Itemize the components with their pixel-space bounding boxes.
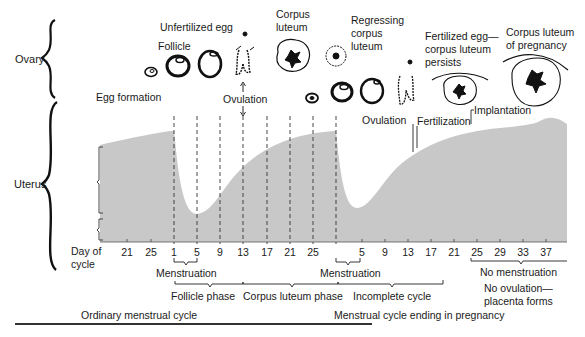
menstruation-1-brace <box>174 258 197 265</box>
phase-brace <box>175 280 443 287</box>
label-regressing-line2: corpus <box>351 27 383 39</box>
label-corpus-luteum-phase: Corpus luteum phase <box>243 290 343 302</box>
label-no-ovulation-line2: placenta forms <box>484 295 553 307</box>
label-cl-pregnancy-line1: Corpus luteum <box>506 26 574 38</box>
tick-label: 21 <box>280 246 300 258</box>
tick-label: 21 <box>444 246 464 258</box>
label-implantation: Implantation <box>474 104 531 116</box>
tick-label: 33 <box>513 246 533 258</box>
tick-label: 5 <box>352 246 372 258</box>
label-fertilized-line1: Fertilized egg— <box>425 30 499 42</box>
label-no-ovulation-line1: No ovulation— <box>484 282 553 294</box>
label-no-menstruation: No menstruation <box>480 266 557 278</box>
label-ovulation-2: Ovulation <box>362 114 406 126</box>
region-label-uterus: Uterus <box>14 178 46 190</box>
label-fertilization: Fertilization <box>417 115 471 127</box>
tick-label: 13 <box>398 246 418 258</box>
label-follicle: Follicle <box>158 40 191 52</box>
tick-label: 5 <box>187 246 207 258</box>
no-menstruation-brace <box>471 258 567 264</box>
label-ovulation-1: Ovulation <box>223 93 267 105</box>
label-regressing-line1: Regressing <box>351 14 404 26</box>
tick-label: 1 <box>164 246 184 258</box>
label-fertilized-line2: corpus luteum <box>425 43 491 55</box>
label-ordinary-cycle: Ordinary menstrual cycle <box>81 309 197 321</box>
axis-title-line1: Day of <box>71 245 101 257</box>
tick-label: 25 <box>141 246 161 258</box>
label-menstruation-2: Menstruation <box>320 267 381 279</box>
tick-label: 17 <box>257 246 277 258</box>
label-cl-pregnancy-line2: of pregnancy <box>506 39 567 51</box>
tick-label: 9 <box>375 246 395 258</box>
label-unfertilized-egg: Unfertilized egg <box>160 21 233 33</box>
tick-label: 29 <box>490 246 510 258</box>
tick-label: 13 <box>233 246 253 258</box>
tick-label: 25 <box>467 246 487 258</box>
axis-title-line2: cycle <box>71 258 95 270</box>
label-pregnancy-cycle: Menstrual cycle ending in pregnancy <box>334 309 504 321</box>
label-incomplete-cycle: Incomplete cycle <box>353 290 431 302</box>
menstruation-2-brace <box>336 258 360 265</box>
tick-label: 17 <box>421 246 441 258</box>
label-corpus-luteum-line1: Corpus <box>276 8 310 20</box>
tick-label: 25 <box>303 246 323 258</box>
tick-label: 37 <box>536 246 556 258</box>
endometrium-area <box>100 118 567 242</box>
tick-label: 9 <box>210 246 230 258</box>
region-label-ovary: Ovary <box>15 53 44 65</box>
label-fertilized-line3: persists <box>425 56 461 68</box>
label-follicle-phase: Follicle phase <box>171 290 235 302</box>
label-corpus-luteum-line2: luteum <box>276 21 308 33</box>
label-egg-formation: Egg formation <box>96 91 161 103</box>
tick-label: 21 <box>117 246 137 258</box>
label-regressing-line3: luteum <box>351 40 383 52</box>
label-menstruation-1: Menstruation <box>156 267 217 279</box>
